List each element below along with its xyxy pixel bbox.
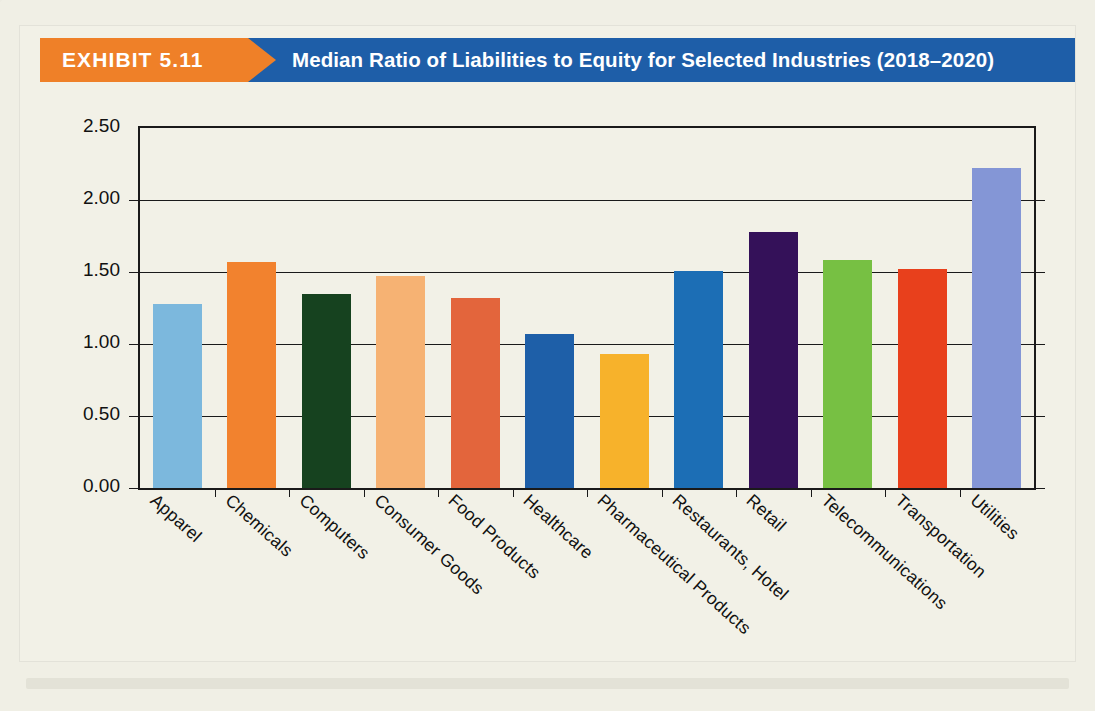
exhibit-title: Median Ratio of Liabilities to Equity fo… <box>292 38 994 82</box>
exhibit-number-label: EXHIBIT 5.11 <box>62 38 204 82</box>
y-axis-tick <box>1036 272 1045 273</box>
exhibit-card: EXHIBIT 5.11 Median Ratio of Liabilities… <box>20 26 1075 661</box>
x-axis-tick-label: Apparel <box>146 490 206 547</box>
y-axis-tick-label: 1.50 <box>83 259 120 281</box>
y-axis-tick <box>129 416 138 417</box>
bar <box>600 354 649 488</box>
chart-area: 0.000.501.001.502.002.50 ApparelChemical… <box>20 86 1075 661</box>
bar <box>749 232 798 488</box>
x-axis-tick-label: Healthcare <box>519 490 597 564</box>
exhibit-page: EXHIBIT 5.11 Median Ratio of Liabilities… <box>0 0 1095 711</box>
y-axis-tick-label: 1.00 <box>83 331 120 353</box>
y-axis-tick-label: 0.00 <box>83 475 120 497</box>
x-axis-tick-label: Chemicals <box>221 490 297 561</box>
bar-series <box>140 128 1034 488</box>
y-axis-tick <box>1036 488 1045 489</box>
y-axis-labels: 0.000.501.001.502.002.50 <box>20 126 126 486</box>
x-axis-tick-label: Pharmaceutical Products <box>593 490 755 639</box>
x-axis-tick-label: Retail <box>742 490 790 536</box>
y-axis-tick-label: 0.50 <box>83 403 120 425</box>
x-axis-tick-label: Utilities <box>966 490 1023 545</box>
x-axis-tick-label: Telecommunications <box>817 490 952 614</box>
y-axis-tick-label: 2.50 <box>83 115 120 137</box>
banner-arrow-icon <box>248 38 276 82</box>
y-axis-tick <box>1036 416 1045 417</box>
y-axis-tick <box>129 344 138 345</box>
x-axis-tick-label: Computers <box>295 490 374 564</box>
y-axis-tick <box>129 488 138 489</box>
bar <box>227 262 276 488</box>
bar <box>376 276 425 488</box>
y-axis-tick <box>129 200 138 201</box>
x-axis-labels: ApparelChemicalsComputersConsumer GoodsF… <box>138 490 1036 640</box>
bar <box>823 260 872 488</box>
bar <box>153 304 202 488</box>
y-axis-tick <box>129 272 138 273</box>
plot-area <box>138 126 1036 490</box>
bar <box>525 334 574 488</box>
y-axis-tick <box>1036 344 1045 345</box>
bar <box>451 298 500 488</box>
exhibit-banner: EXHIBIT 5.11 Median Ratio of Liabilities… <box>40 38 1075 82</box>
y-axis-tick <box>1036 200 1045 201</box>
bar <box>898 269 947 488</box>
bar <box>972 168 1021 488</box>
y-axis-tick-label: 2.00 <box>83 187 120 209</box>
bar <box>674 271 723 488</box>
background-text-line <box>26 678 1069 689</box>
bar <box>302 294 351 488</box>
